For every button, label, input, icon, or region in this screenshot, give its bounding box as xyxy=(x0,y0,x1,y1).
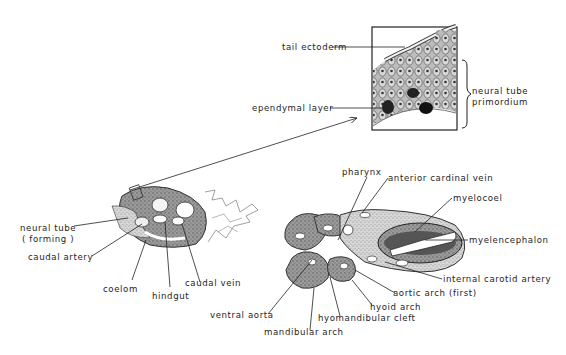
inset-histology xyxy=(372,26,457,130)
magnify-arrow xyxy=(130,118,357,190)
label-anterior-cardinal-vein: anterior cardinal vein xyxy=(388,173,493,183)
label-myelencephalon: myelencephalon xyxy=(469,235,549,245)
brace xyxy=(462,60,471,128)
label-neural-tube-forming-1: neural tube xyxy=(20,223,76,233)
label-internal-carotid-artery: internal carotid artery xyxy=(443,274,551,284)
label-tail-ectoderm: tail ectoderm xyxy=(282,42,347,52)
label-caudal-artery: caudal artery xyxy=(28,252,93,262)
label-pharynx: pharynx xyxy=(342,167,382,177)
label-hyomandibular-cleft: hyomandibular cleft xyxy=(318,313,416,323)
label-neural-tube-primordium-1: neural tube xyxy=(472,86,528,96)
label-coelom: coelom xyxy=(103,284,138,294)
tail-section xyxy=(112,185,258,248)
label-aortic-arch: aortic arch (first) xyxy=(393,288,477,298)
label-myelocoel: myelocoel xyxy=(453,193,502,203)
label-neural-tube-primordium-2: primordium xyxy=(472,97,528,107)
label-ventral-aorta: ventral aorta xyxy=(210,310,274,320)
head-section xyxy=(285,210,465,289)
label-caudal-vein: caudal vein xyxy=(185,278,241,288)
label-mandibular-arch: mandibular arch xyxy=(264,327,344,337)
label-hyoid-arch: hyoid arch xyxy=(370,302,421,312)
label-hindgut: hindgut xyxy=(152,291,189,301)
label-neural-tube-forming-2: ( forming ) xyxy=(22,234,74,244)
label-ependymal-layer: ependymal layer xyxy=(252,103,333,113)
